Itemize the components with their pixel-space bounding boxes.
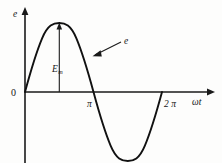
x-axis-arrowhead xyxy=(207,89,215,96)
tick-label-two-pi: 2 π xyxy=(164,99,176,109)
amplitude-label-subscript: m xyxy=(58,68,63,75)
y-axis-label: e xyxy=(13,9,17,19)
amplitude-label: Em xyxy=(51,64,63,75)
tick-label-pi: π xyxy=(87,99,92,109)
x-axis-label: ωt xyxy=(192,97,202,107)
amplitude-label-main: E xyxy=(51,64,58,74)
curve-leader-arrowhead xyxy=(93,50,102,56)
emf-waveform-figure: e 0 Em e π 2 π ωt xyxy=(0,0,222,163)
curve-label: e xyxy=(124,36,128,46)
origin-label: 0 xyxy=(11,87,16,98)
amplitude-arrow xyxy=(57,23,63,93)
y-axis-arrowhead xyxy=(22,7,29,15)
x-axis xyxy=(25,89,215,96)
waveform-svg: e 0 Em e π 2 π ωt xyxy=(0,0,222,163)
curve-label-leader xyxy=(93,42,122,57)
